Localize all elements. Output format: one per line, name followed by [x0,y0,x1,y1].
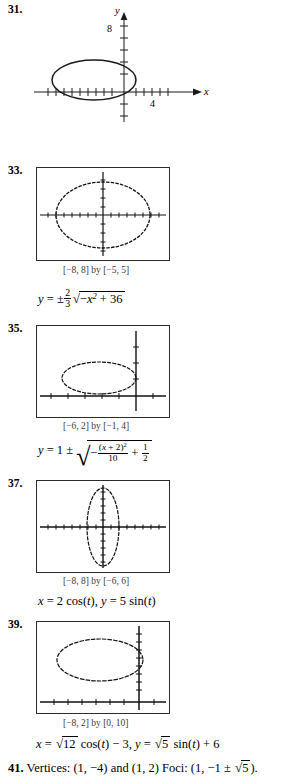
y-tick-label-8-31: 8 [107,23,112,34]
calculator-screen-37 [36,480,170,573]
vertex-2-41: (1, 2) [132,761,159,775]
fraction-x-plus-2-squared-over-10: (x + 2)210 [98,442,128,463]
window-label-39: [−8, 2] by [0, 10] [63,718,129,728]
radical-35: √−(x + 2)210 + 12 [76,440,152,463]
graph-35-svg [37,326,169,417]
calculator-screen-35 [36,325,170,418]
calculator-screen-33 [36,167,170,261]
graph-39-svg [37,622,169,713]
ellipse-curve-35 [62,362,136,394]
problem-number-37: 37. [8,477,22,489]
fraction-two-thirds-33: 23 [64,288,71,309]
radical-33: √−x2 + 36 [72,291,125,307]
graph-37-svg [37,481,169,572]
foci-value-41: (1, −1 ± √5). [191,761,258,775]
calculator-screen-39 [36,621,170,714]
window-label-33: [−8, 8] by [−5, 5] [63,265,129,275]
problem-number-33: 33. [8,164,22,176]
x-axis-arrow-31 [193,89,202,96]
conjunction-41: and [111,761,129,775]
graph-31-axes [30,4,210,122]
answer-41: 41. Vertices: (1, −4) and (1, 2) Foci: (… [8,760,258,776]
x-axis-label-31: x [204,86,209,97]
radical-5-39: √5 [154,736,170,752]
ellipse-curve-39 [57,639,143,681]
problem-number-31: 31. [8,3,22,15]
graph-31-svg [30,4,210,122]
radical-12-39: √12 [55,736,78,752]
equation-35: y = 1 ± √−(x + 2)210 + 12 [38,440,152,463]
vertex-1-41: (1, −4) [73,761,107,775]
problem-number-39: 39. [8,618,22,630]
problem-number-35: 35. [8,322,22,334]
equation-37: x = 2 cos(t), y = 5 sin(t) [38,594,156,609]
problem-number-41: 41. [8,761,24,775]
fraction-one-half-35: 12 [142,443,149,463]
foci-label-41: Foci: [162,761,188,775]
x-tick-label-4-31: 4 [150,98,155,109]
graph-33-svg [37,168,169,260]
equation-33: y = ±23√−x2 + 36 [38,288,125,309]
equation-39: x = √12 cos(t) − 3, y = √5 sin(t) + 6 [36,736,219,752]
y-axis-label-31: y [115,5,120,16]
ellipse-curve-31 [52,60,136,100]
y-axis-arrow-31 [121,12,128,20]
window-label-35: [−6, 2] by [−1, 4] [63,421,129,431]
vertices-label-41: Vertices: [27,761,71,775]
window-label-37: [−8, 8] by [−6, 6] [63,576,129,586]
